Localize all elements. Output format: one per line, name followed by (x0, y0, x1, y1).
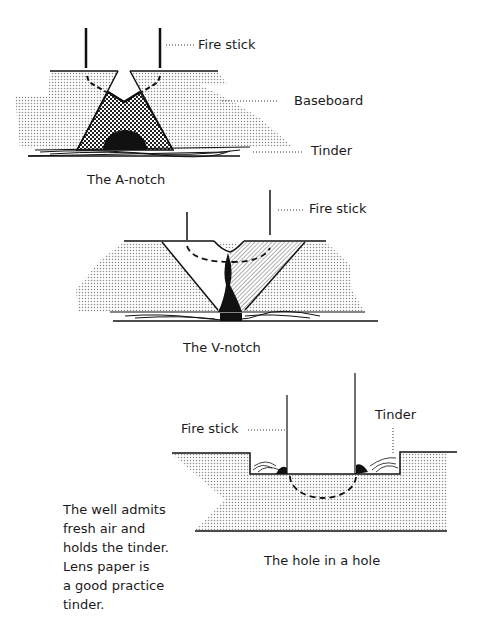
hole-in-hole-caption: The hole in a hole (264, 553, 380, 568)
a-notch-tinder-label: Tinder (311, 143, 352, 158)
note-line: tinder. (63, 595, 169, 614)
a-notch-diagram (15, 28, 302, 157)
v-notch-caption: The V-notch (183, 340, 261, 355)
note-line: a good practice (63, 576, 169, 595)
hole-tinder-label: Tinder (375, 407, 416, 422)
v-notch-fire-stick-label: Fire stick (309, 201, 367, 216)
a-notch-caption: The A-notch (87, 172, 165, 187)
note-line: The well admits (63, 500, 169, 519)
a-notch-fire-stick-label: Fire stick (198, 37, 256, 52)
hole-fire-stick-label: Fire stick (181, 421, 239, 436)
a-notch-baseboard-label: Baseboard (294, 93, 363, 108)
hole-in-hole-diagram (172, 373, 457, 531)
note-line: Lens paper is (63, 557, 169, 576)
note-line: fresh air and (63, 519, 169, 538)
note-line: holds the tinder. (63, 538, 169, 557)
side-note: The well admits fresh air and holds the … (63, 500, 169, 614)
